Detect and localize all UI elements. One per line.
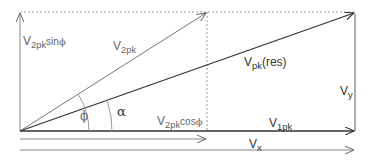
diagram-canvas xyxy=(0,0,374,160)
phi-label: ϕ xyxy=(80,110,88,122)
v2pk-cos-label: V2pkcosϕ xyxy=(157,115,202,131)
alpha-angle-arc xyxy=(107,100,112,131)
phasor-diagram: V2pksinϕ V2pk Vpk(res) ϕ α V2pkcosϕ V1pk… xyxy=(0,0,374,160)
v2pk-label: V2pk xyxy=(113,40,136,56)
v2pk-sin-label: V2pksinϕ xyxy=(23,35,66,51)
v1pk-label: V1pk xyxy=(269,117,292,133)
v2pk-vector xyxy=(20,13,206,131)
vpk-res-label: Vpk(res) xyxy=(244,56,287,72)
alpha-label: α xyxy=(117,105,126,118)
vx-label: Vx xyxy=(249,138,262,154)
vy-label: Vy xyxy=(340,85,353,101)
vpk-res-vector xyxy=(20,13,354,131)
